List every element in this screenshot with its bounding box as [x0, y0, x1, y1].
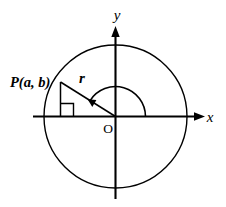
right-angle-marker — [61, 104, 74, 117]
angle-arc — [90, 87, 145, 117]
unit-circle-figure: y x O P(a, b) r — [0, 0, 226, 207]
y-axis-arrowhead — [111, 26, 119, 37]
x-axis-label: x — [206, 109, 214, 125]
y-axis-label: y — [112, 7, 121, 23]
radius-label: r — [79, 70, 85, 86]
figure-canvas: y x O P(a, b) r — [0, 0, 226, 207]
x-axis-arrowhead — [194, 112, 205, 120]
point-p-label: P(a, b) — [10, 74, 50, 91]
origin-label: O — [103, 121, 113, 136]
